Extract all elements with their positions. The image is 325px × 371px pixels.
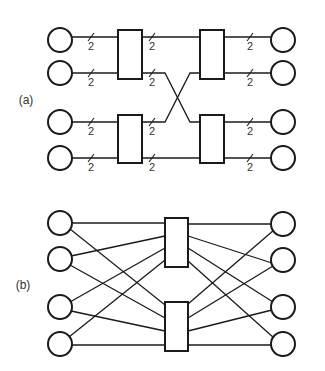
diagram-b-crossbar-network: (b) xyxy=(16,211,295,356)
wire-11 xyxy=(188,248,273,302)
node-circle-b-in-4 xyxy=(48,332,72,356)
diagram-a-multistage-bus-network: 222222222222 (a) xyxy=(19,28,295,173)
bus-width-label: 2 xyxy=(88,40,94,52)
node-circle-b-in-1 xyxy=(48,211,72,235)
diagram-a-wires: 222222222222 xyxy=(72,33,271,173)
node-circle-b-in-2 xyxy=(48,247,72,271)
bus-width-label: 2 xyxy=(247,76,253,88)
node-circle-b-out-3 xyxy=(271,295,295,319)
switch-box-a-sw-2 xyxy=(200,30,224,79)
bus-width-label: 2 xyxy=(149,76,155,88)
switch-box-a-sw-3 xyxy=(118,115,142,163)
bus-width-label: 2 xyxy=(247,161,253,173)
node-circle-a-out-1 xyxy=(271,28,295,52)
wire-3 xyxy=(71,236,165,256)
node-circle-a-in-2 xyxy=(48,61,72,85)
bus-width-label: 2 xyxy=(88,161,94,173)
node-circle-b-in-3 xyxy=(48,295,72,319)
node-circle-a-in-1 xyxy=(48,28,72,52)
switch-box-b-sw-2 xyxy=(165,302,188,351)
diagram-a-label: (a) xyxy=(19,93,34,107)
wire-15 xyxy=(188,310,272,331)
node-circle-a-in-4 xyxy=(48,146,72,170)
bus-width-label: 2 xyxy=(88,76,94,88)
wire-7 xyxy=(69,260,165,337)
node-circle-a-in-3 xyxy=(48,110,72,134)
node-circle-b-out-1 xyxy=(271,212,295,236)
diagram-b-label: (b) xyxy=(16,278,31,292)
node-circle-a-out-2 xyxy=(271,61,295,85)
bus-width-label: 2 xyxy=(88,125,94,137)
bus-width-label: 2 xyxy=(149,125,155,137)
switch-network-figure: 222222222222 (a) (b) xyxy=(0,0,325,371)
switch-box-a-sw-4 xyxy=(200,115,224,163)
diagram-a-nodes xyxy=(48,28,295,170)
wire-13 xyxy=(188,230,274,304)
bus-width-label: 2 xyxy=(149,40,155,52)
node-circle-a-out-4 xyxy=(271,146,295,170)
diagram-b-switch-boxes xyxy=(165,218,188,351)
node-circle-b-out-4 xyxy=(271,332,295,356)
node-circle-b-out-2 xyxy=(271,248,295,272)
wire-6 xyxy=(71,311,165,331)
bus-width-label: 2 xyxy=(247,40,253,52)
wire-4 xyxy=(70,265,165,318)
bus-width-label: 2 xyxy=(149,161,155,173)
wire-14 xyxy=(188,266,273,318)
switch-box-b-sw-1 xyxy=(165,218,188,267)
switch-box-a-sw-1 xyxy=(118,30,142,79)
bus-width-label: 2 xyxy=(247,125,253,137)
wire-10 xyxy=(188,236,272,263)
node-circle-a-out-3 xyxy=(271,110,295,134)
diagram-a-switch-boxes xyxy=(118,30,224,163)
